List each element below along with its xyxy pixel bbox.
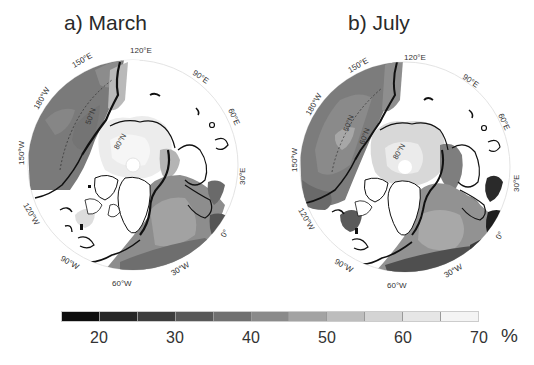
lon-label-90w: 90°W <box>333 257 355 275</box>
lon-label-30w: 30°W <box>443 262 465 280</box>
lon-label-150w: 150°W <box>17 140 26 165</box>
colorbar-bin <box>138 312 176 321</box>
lon-label-120e: 120°E <box>130 46 152 55</box>
colorbar-unit: % <box>501 325 518 347</box>
colorbar-bin <box>100 312 138 321</box>
lon-label-0: 0° <box>494 230 506 241</box>
colorbar-bin <box>214 312 252 321</box>
colorbar-tick-30: 30 <box>166 329 184 347</box>
lon-label-0: 0° <box>219 228 231 239</box>
colorbar-tick-50: 50 <box>318 329 336 347</box>
polar-maps: 120°E 90°E 60°E 30°E 0° 30°W 60°W 90°W 1… <box>0 0 534 300</box>
colorbar-bin <box>327 312 365 321</box>
colorbar-bin <box>441 312 478 321</box>
lon-label-120e: 120°E <box>404 53 426 62</box>
colorbar <box>61 311 479 322</box>
colorbar-bin <box>176 312 214 321</box>
lon-label-60w: 60°W <box>112 279 132 288</box>
colorbar-bin <box>252 312 290 321</box>
colorbar-bin <box>62 312 100 321</box>
colorbar-bin <box>403 312 441 321</box>
lon-label-90w: 90°W <box>59 254 81 272</box>
colorbar-bin <box>289 312 327 321</box>
map-march: 120°E 90°E 60°E 30°E 0° 30°W 60°W 90°W 1… <box>17 46 247 288</box>
lon-label-30e: 30°E <box>512 175 521 192</box>
colorbar-tick-40: 40 <box>242 329 260 347</box>
lon-label-150e: 150°E <box>71 51 94 70</box>
colorbar-tick-60: 60 <box>394 329 412 347</box>
colorbar-bin <box>365 312 403 321</box>
colorbar-tick-70: 70 <box>470 329 488 347</box>
lon-label-150w: 150°W <box>290 147 299 172</box>
map-july: 120°E 90°E 60°E 30°E 0° 30°W 60°W 90°W 1… <box>290 53 521 290</box>
lon-label-60w: 60°W <box>387 281 407 290</box>
colorbar-tick-20: 20 <box>90 329 108 347</box>
lon-label-30e: 30°E <box>238 168 247 185</box>
